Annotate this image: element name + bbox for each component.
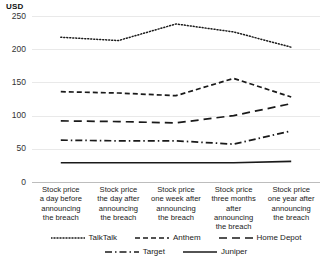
legend-item-talktalk[interactable]: TalkTalk	[51, 233, 117, 242]
y-tick-label: 100	[0, 111, 26, 120]
legend-label: Juniper	[221, 247, 247, 256]
x-category-label-line: the breach	[33, 213, 89, 222]
series-line-talktalk	[61, 24, 291, 47]
y-tick-label: 200	[0, 45, 26, 54]
x-category-label-2: Stock pricethe day afterannouncingthe br…	[90, 185, 148, 225]
x-category-label-4: Stock pricethree monthsafter announcingt…	[205, 185, 263, 225]
x-category-label-1: Stock pricea day beforeannouncingthe bre…	[32, 185, 90, 225]
x-category-label-line: announcing	[33, 204, 89, 213]
x-category-label-line: Stock price	[263, 185, 319, 194]
legend-item-anthem[interactable]: Anthem	[135, 233, 201, 242]
y-tick-label: 0	[0, 178, 26, 187]
x-axis-category-labels: Stock pricea day beforeannouncingthe bre…	[32, 185, 320, 225]
legend-swatch-icon	[135, 233, 169, 242]
x-category-label-line: the breach	[263, 213, 319, 222]
x-category-label-line: the day after	[91, 194, 147, 203]
legend-item-target[interactable]: Target	[105, 247, 165, 256]
legend-swatch-icon	[51, 233, 85, 242]
chart-legend: TalkTalkAnthemHome Depot TargetJuniper	[32, 230, 320, 258]
x-category-label-line: Stock price	[91, 185, 147, 194]
legend-swatch-icon	[183, 247, 217, 256]
y-tick-label: 50	[0, 144, 26, 153]
legend-row-2: TargetJuniper	[32, 244, 320, 258]
x-category-label-line: announcing	[148, 204, 204, 213]
legend-swatch-icon	[105, 247, 139, 256]
x-category-label-line: the breach	[148, 213, 204, 222]
legend-label: TalkTalk	[89, 233, 117, 242]
y-tick-label: 150	[0, 78, 26, 87]
line-chart: USD 250200150100500 Stock pricea day bef…	[0, 0, 333, 266]
x-category-label-line: after announcing	[206, 204, 262, 223]
x-category-label-line: a day before	[33, 194, 89, 203]
x-category-label-line: three months	[206, 194, 262, 203]
x-category-label-3: Stock priceone week afterannouncingthe b…	[147, 185, 205, 225]
y-tick-label: 250	[0, 12, 26, 21]
x-category-label-line: one year after	[263, 194, 319, 203]
legend-swatch-icon	[219, 233, 253, 242]
legend-label: Home Depot	[257, 233, 302, 242]
series-lines	[32, 16, 320, 182]
plot-area	[32, 16, 320, 182]
legend-label: Target	[143, 247, 165, 256]
x-category-label-line: announcing	[91, 204, 147, 213]
series-line-target	[61, 131, 291, 144]
x-category-label-line: announcing	[263, 204, 319, 213]
x-category-label-line: Stock price	[148, 185, 204, 194]
x-category-label-line: Stock price	[206, 185, 262, 194]
x-category-label-line: Stock price	[33, 185, 89, 194]
y-axis-title: USD	[6, 2, 24, 11]
legend-row-1: TalkTalkAnthemHome Depot	[32, 230, 320, 244]
legend-label: Anthem	[173, 233, 201, 242]
series-line-home-depot	[61, 104, 291, 123]
x-category-label-line: one week after	[148, 194, 204, 203]
x-category-label-line: the breach	[91, 213, 147, 222]
legend-item-home-depot[interactable]: Home Depot	[219, 233, 302, 242]
legend-item-juniper[interactable]: Juniper	[183, 247, 247, 256]
x-axis-line	[32, 182, 320, 183]
series-line-anthem	[61, 78, 291, 97]
x-category-label-5: Stock priceone year afterannouncingthe b…	[262, 185, 320, 225]
series-line-juniper	[61, 161, 291, 162]
